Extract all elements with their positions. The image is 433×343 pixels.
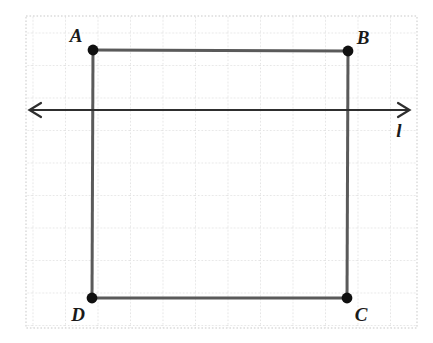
vertex-dot-a	[88, 45, 99, 56]
vertex-dot-b	[343, 46, 354, 57]
segment-bc	[347, 51, 348, 298]
vertex-label-d: D	[71, 305, 85, 324]
vertex-dot-d	[87, 293, 98, 304]
vertex-label-b: B	[357, 28, 370, 47]
vertex-label-c: C	[355, 305, 368, 324]
segment-ab	[93, 50, 348, 51]
geometry-figure: A B C D l	[0, 0, 433, 343]
vertex-dot-c	[342, 293, 353, 304]
vertex-label-a: A	[70, 26, 83, 45]
diagram-canvas	[0, 0, 433, 343]
segment-da	[92, 50, 93, 298]
line-label-l: l	[396, 121, 401, 140]
grid-background	[26, 16, 417, 328]
